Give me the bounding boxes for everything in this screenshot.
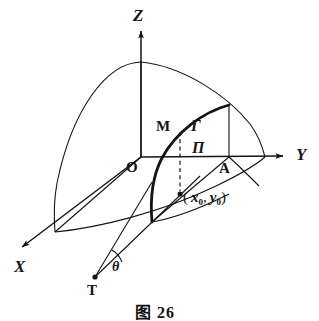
curve-gamma-label: Г <box>191 118 201 134</box>
coord-close-paren: ) <box>221 189 226 205</box>
theta-label: θ <box>112 260 119 274</box>
point-t-marker <box>92 274 97 279</box>
coord-x-symbol: x <box>191 189 199 205</box>
projection-group <box>178 132 183 197</box>
theta-ray-lower <box>95 182 152 277</box>
z-axis-label: Z <box>133 7 143 24</box>
point-t-label: T <box>87 283 97 298</box>
coord-separator: , <box>203 189 207 205</box>
sphere-arc-zx <box>54 62 141 232</box>
y-axis-label: Y <box>296 146 306 163</box>
x-axis-label: X <box>14 258 25 275</box>
x-axis-line <box>22 157 141 247</box>
coordinate-label: (x0,y0) <box>183 190 226 205</box>
sphere-octant-group <box>54 62 265 232</box>
origin-label: O <box>126 160 138 175</box>
plane-pi-label: П <box>192 140 204 156</box>
point-m-label: M <box>156 119 170 134</box>
figure-caption: 图 26 <box>135 305 175 321</box>
coord-open-paren: ( <box>183 189 188 205</box>
coord-x-subscript: 0 <box>199 197 204 207</box>
point-a-label: A <box>219 161 230 176</box>
plane-trace-right <box>229 157 259 186</box>
coord-y-subscript: 0 <box>216 197 221 207</box>
